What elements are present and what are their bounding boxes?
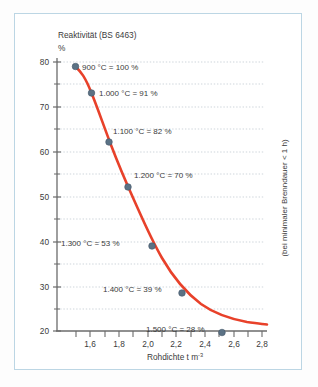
y-tick-label-80: 80: [40, 57, 50, 67]
reactivity-density-chart: 80 70 60 50 40 30 20 1,6 1,8 2,0 2,2 2,4…: [15, 14, 303, 371]
figure-frame: 80 70 60 50 40 30 20 1,6 1,8 2,0 2,2 2,4…: [14, 13, 302, 370]
annotation-1500c: 1.500 °C = 28 %: [146, 325, 205, 334]
right-side-label: (bei minimaler Brenndauer < 1 h): [280, 139, 289, 257]
data-point-900c[interactable]: [72, 63, 79, 70]
data-point-1500c[interactable]: [219, 329, 226, 336]
data-point-1100c[interactable]: [106, 139, 113, 146]
figure-page: 80 70 60 50 40 30 20 1,6 1,8 2,0 2,2 2,4…: [0, 0, 318, 387]
y-tick-label-50: 50: [40, 192, 50, 202]
annotation-900c: 900 °C = 100 %: [82, 63, 138, 72]
x-tick-label-2-2: 2,2: [170, 339, 182, 349]
x-tick-label-1-6: 1,6: [84, 339, 96, 349]
data-point-1000c[interactable]: [88, 90, 95, 97]
annotation-1100c: 1.100 °C = 82 %: [113, 127, 172, 136]
annotation-1300c: 1.300 °C = 53 %: [61, 239, 120, 248]
y-axis-unit-label: %: [58, 43, 66, 53]
x-tick-label-2-0: 2,0: [142, 339, 154, 349]
annotation-1400c: 1.400 °C = 39 %: [103, 285, 162, 294]
data-point-1400c[interactable]: [179, 290, 186, 297]
y-tick-label-60: 60: [40, 147, 50, 157]
x-axis-title-text: Rohdichte t m: [147, 352, 198, 362]
x-axis-title-exponent: -3: [198, 352, 203, 358]
data-point-1200c[interactable]: [125, 184, 132, 191]
y-tick-label-30: 30: [40, 282, 50, 292]
x-tick-label-2-6: 2,6: [228, 339, 240, 349]
y-tick-label-40: 40: [40, 237, 50, 247]
x-tick-label-2-8: 2,8: [256, 339, 268, 349]
annotation-1200c: 1.200 °C = 70 %: [134, 171, 193, 180]
x-axis-title: Rohdichte t m-3: [147, 352, 203, 362]
y-tick-label-20: 20: [40, 326, 50, 336]
chart-title: Reaktivität (BS 6463): [58, 30, 137, 40]
annotation-1000c: 1.000 °C = 91 %: [99, 89, 158, 98]
x-tick-label-2-4: 2,4: [199, 339, 211, 349]
gridlines: [57, 62, 265, 309]
y-tick-label-70: 70: [40, 102, 50, 112]
chart-container: 80 70 60 50 40 30 20 1,6 1,8 2,0 2,2 2,4…: [15, 14, 303, 371]
x-tick-label-1-8: 1,8: [113, 339, 125, 349]
data-point-1300c[interactable]: [149, 243, 156, 250]
